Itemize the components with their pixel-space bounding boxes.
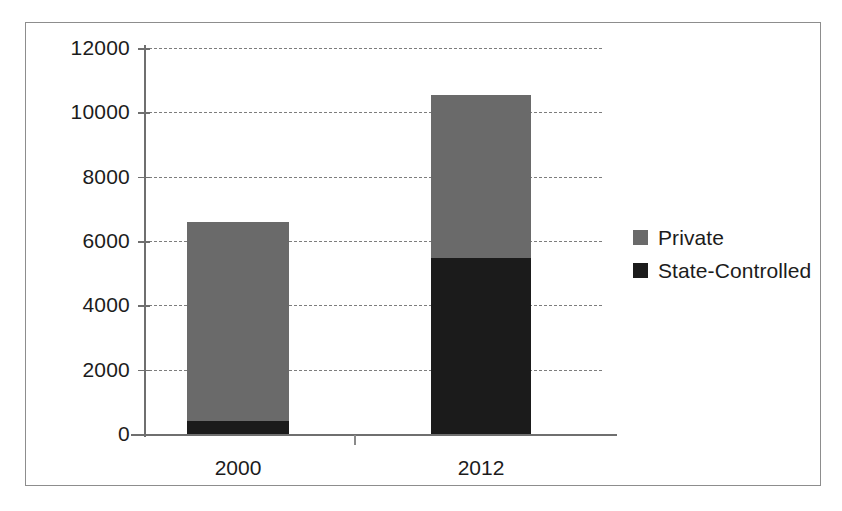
y-tick-label-10000: 10000 [71, 100, 130, 124]
y-tick-label-6000: 6000 [82, 229, 130, 253]
gridline-12000 [144, 48, 602, 49]
bar-segment-2000-state-controlled[interactable] [187, 421, 289, 434]
y-tick-label-0: 0 [118, 422, 130, 446]
gridline-10000 [144, 112, 602, 113]
legend-item-state-controlled[interactable]: State-Controlled [633, 254, 811, 287]
y-tick-4000 [138, 305, 150, 307]
chart-frame: 12000 10000 8000 6000 4000 2000 0 2000 2… [25, 22, 821, 486]
y-tick-8000 [138, 177, 150, 179]
legend-label-private: Private [658, 226, 724, 250]
y-tick-10000 [138, 112, 150, 114]
gridline-8000 [144, 177, 602, 178]
x-axis-mid-tick [354, 435, 356, 445]
x-tick-label-2000: 2000 [158, 456, 318, 480]
bar-segment-2012-state-controlled[interactable] [431, 258, 531, 434]
bar-segment-2000-private[interactable] [187, 222, 289, 421]
y-tick-0 [138, 434, 150, 436]
y-tick-label-4000: 4000 [82, 293, 130, 317]
y-tick-2000 [138, 370, 150, 372]
x-axis-line [131, 434, 617, 436]
bar-2012[interactable]: 2012 [431, 95, 531, 434]
legend-label-state-controlled: State-Controlled [658, 259, 811, 283]
chart-legend: Private State-Controlled [633, 221, 811, 287]
legend-swatch-state-controlled-icon [633, 263, 648, 278]
y-tick-6000 [138, 241, 150, 243]
x-tick-label-2012: 2012 [401, 456, 561, 480]
legend-item-private[interactable]: Private [633, 221, 811, 254]
y-tick-12000 [138, 48, 150, 50]
y-tick-label-2000: 2000 [82, 358, 130, 382]
legend-swatch-private-icon [633, 230, 648, 245]
bar-segment-2012-private[interactable] [431, 95, 531, 258]
y-tick-label-8000: 8000 [82, 165, 130, 189]
bar-2000[interactable]: 2000 [187, 222, 289, 434]
y-tick-label-12000: 12000 [71, 36, 130, 60]
plot-area: 12000 10000 8000 6000 4000 2000 0 2000 2… [144, 48, 602, 434]
